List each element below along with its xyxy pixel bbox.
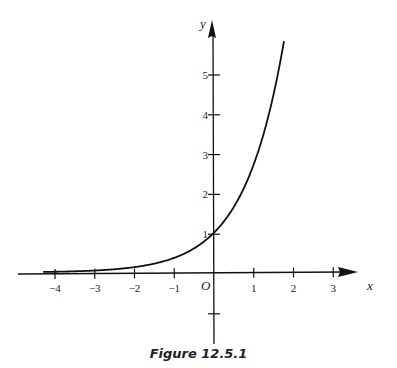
y-tick-label: 4: [203, 109, 209, 121]
exponential-curve: [43, 41, 284, 272]
x-tick-label: −2: [129, 282, 141, 294]
y-tick-label: 2: [203, 188, 209, 200]
figure-caption: Figure 12.5.1: [0, 346, 397, 361]
y-axis-arrow-icon: [208, 20, 216, 38]
y-tick-label: 3: [203, 149, 209, 161]
y-axis: [213, 35, 214, 344]
x-tick-label: 3: [331, 282, 337, 294]
x-tick-label: −4: [49, 282, 61, 294]
x-tick-label: 2: [291, 282, 297, 294]
x-tick-label: −1: [168, 282, 180, 294]
y-tick-label: 5: [203, 69, 209, 81]
x-axis-arrow-icon: [338, 267, 358, 277]
exponential-graph: −4−3−2−1123 12345 y x O: [0, 0, 397, 368]
x-axis-label: x: [366, 278, 373, 293]
x-tick-label: 1: [251, 282, 257, 294]
x-tick-label: −3: [89, 282, 101, 294]
origin-label: O: [201, 278, 211, 293]
y-axis-label: y: [198, 16, 206, 31]
